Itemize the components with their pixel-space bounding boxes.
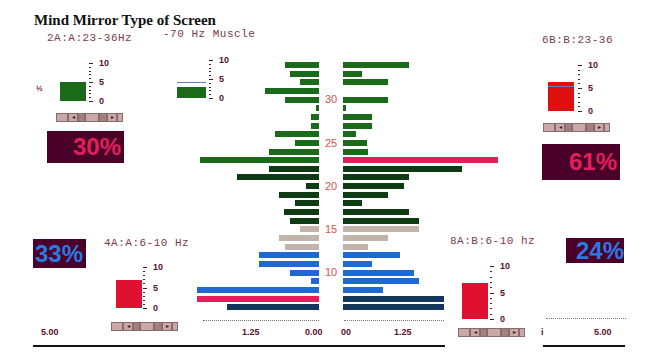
scale-tick [490,277,492,278]
left-bar-19 [279,192,319,198]
top-center-level-box [177,87,206,98]
scale-tick [89,67,91,68]
scroll-segment[interactable] [85,113,99,122]
right-bar-12 [343,252,400,258]
page-title: Mind Mirror Type of Screen [34,12,216,29]
row-label-20: 20 [319,180,343,192]
right-bar-27 [343,123,372,129]
scroll-segment[interactable] [519,328,525,337]
scroll-segment[interactable] [501,328,509,337]
scroll-segment[interactable] [154,322,162,331]
left-bar-15 [300,226,319,232]
left-bar-23 [200,157,319,163]
percent-display-8a: 24% [566,238,624,263]
scale-tick [143,279,145,280]
axis-label-right-mid: 1.25 [394,327,412,337]
right-arrow-button[interactable]: ▸ [162,322,172,331]
baseline-right [543,345,625,347]
left-arrow-button[interactable]: ◂ [470,328,480,337]
scale-tick [209,83,211,84]
scale-tick [209,98,213,99]
right-bar-21 [343,174,409,180]
left-arrow-button[interactable]: ◂ [123,322,133,331]
scale-tick [89,93,91,94]
scale-tick [89,97,91,98]
scale-label: 10 [500,261,510,271]
right-bar-32 [343,79,388,85]
channel-label-2a: 2A:A:23-36Hz [47,32,132,44]
axis-label-left-mid: 1.25 [242,327,260,337]
scale-tick [490,319,494,320]
scroll-segment[interactable] [56,113,68,122]
row-label-25: 25 [319,137,343,149]
scale-tick [209,64,211,65]
scroll-segment[interactable] [99,113,107,122]
scroll-segment[interactable] [133,322,140,331]
percent-display-6b: 61% [542,144,620,180]
percent-value: 33% [35,240,83,267]
right-arrow-button[interactable]: ▸ [594,123,604,132]
scroll-segment[interactable] [117,113,123,122]
scale-tick [578,65,582,66]
row-label-30: 30 [319,93,343,105]
scale-tick [490,282,492,283]
left-bar-26 [275,131,319,137]
right-bar-23 [343,157,498,163]
scroll-segment[interactable] [543,123,555,132]
left-arrow-button[interactable]: ◂ [555,123,565,132]
scroll-segment[interactable] [572,123,586,132]
right-arrow-button[interactable]: ▸ [509,328,519,337]
scroll-segment[interactable] [487,328,501,337]
left-bar-25 [295,140,319,146]
channel-label-6b: 6B:B:23-36 [542,34,613,46]
scale-tick [143,292,145,293]
scroll-segment[interactable] [604,123,610,132]
scale-tick [89,82,93,83]
scale-tick [143,304,145,305]
left-bar-9 [311,278,319,284]
scale-label: 5 [588,83,593,93]
channel-label-muscle: -70 Hz Muscle [163,28,255,40]
right-bar-18 [343,200,362,206]
left-bar-27 [311,123,319,129]
channel-label-4a: 4A:A:6-10 Hz [104,237,189,249]
right-bar-24 [343,149,368,155]
top-left-scroll-control[interactable]: ◂▸ [56,113,123,122]
left-bar-10 [290,270,319,276]
scroll-segment[interactable] [172,322,178,331]
scale-tick [143,283,145,284]
top-right-scroll-control[interactable]: ◂▸ [543,123,610,132]
right-bar-34 [343,62,409,68]
scroll-segment[interactable] [458,328,470,337]
scale-label: 0 [588,106,593,116]
axis-label-right-outer: 5.00 [594,327,612,337]
scale-label: 5 [99,77,104,87]
left-bar-34 [285,62,319,68]
left-bar-12 [259,252,319,258]
right-bar-9 [343,278,419,284]
scroll-segment[interactable] [586,123,594,132]
bottom-right-scroll-control[interactable]: ◂▸ [458,328,525,337]
scroll-segment[interactable] [78,113,85,122]
left-bar-16 [290,218,319,224]
left-arrow-button[interactable]: ◂ [68,113,78,122]
bottom-left-scroll-control[interactable]: ◂▸ [111,322,178,331]
left-bar-33 [290,71,319,77]
left-bar-7 [197,296,319,302]
left-bar-8 [197,287,319,293]
scroll-segment[interactable] [140,322,154,331]
left-bar-13 [285,244,319,250]
scroll-segment[interactable] [480,328,487,337]
right-bar-33 [343,71,362,77]
scale-tick [490,303,492,304]
channel-label-8a: 8A:B:6-10 hz [450,235,535,247]
left-bar-17 [284,209,319,215]
left-bar-29 [316,105,319,111]
row-label-15: 15 [319,223,343,235]
scale-tick [578,106,580,107]
scroll-segment[interactable] [565,123,572,132]
right-arrow-button[interactable]: ▸ [107,113,117,122]
left-bar-24 [269,149,319,155]
left-axis-ticks [203,320,319,322]
scroll-segment[interactable] [111,322,123,331]
